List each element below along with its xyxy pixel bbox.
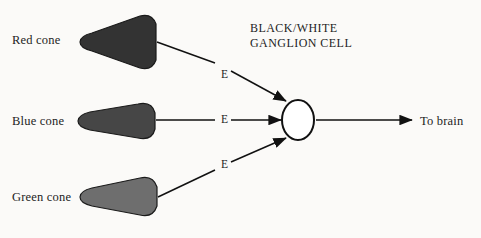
- ganglion-cell-title-line-2: GANGLION CELL: [250, 37, 352, 51]
- synapse-label-green: E: [221, 158, 228, 171]
- ganglion-cell-body: [282, 100, 314, 140]
- cone-ganglion-diagram: Red cone Blue cone Green cone E E E BLAC…: [0, 0, 481, 238]
- green-cone-shape: [80, 177, 157, 215]
- cone-label-red: Red cone: [12, 33, 60, 47]
- synapse-label-blue: E: [221, 113, 228, 126]
- red-cone-shape: [80, 15, 156, 68]
- cone-label-green: Green cone: [12, 190, 71, 204]
- red-cone-axon-segment-2: [231, 71, 286, 101]
- green-cone-axon-segment-1: [158, 170, 215, 197]
- diagram-canvas: [0, 0, 481, 238]
- cone-label-blue: Blue cone: [12, 114, 64, 128]
- green-cone-axon-segment-2: [231, 138, 286, 162]
- blue-cone-shape: [78, 103, 155, 138]
- output-label-to-brain: To brain: [420, 114, 463, 128]
- ganglion-cell-title-line-1: BLACK/WHITE: [250, 22, 338, 36]
- red-cone-axon-segment-1: [157, 42, 215, 63]
- synapse-label-red: E: [221, 68, 228, 81]
